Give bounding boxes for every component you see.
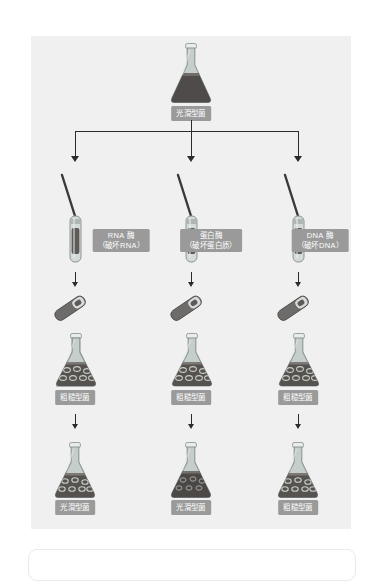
mid-flask-label-1: 粗糙型菌: [55, 390, 95, 405]
flow-arrow-head-1a: [72, 282, 78, 287]
mid-flask-group-1: [45, 292, 111, 396]
branch-arrow-1: [71, 156, 79, 162]
enzyme-label-3: DNA 酶 （破坏DNA）: [292, 229, 349, 252]
branch-line-2: [191, 131, 192, 157]
branch-line-3: [298, 131, 299, 157]
mid-flask-label-2: 粗糙型菌: [171, 390, 211, 405]
enzyme-label-1: RNA 酶 （破坏RNA）: [93, 229, 150, 252]
tree-crossbar: [75, 131, 298, 132]
branch-line-1: [75, 131, 76, 157]
result-label-2: 光滑型菌: [171, 500, 211, 515]
mid-flask-group-3: [268, 292, 334, 396]
pipette-test-tube-3: [281, 172, 315, 276]
flow-arrow-head-3b: [295, 424, 301, 429]
branch-arrow-2: [187, 156, 195, 162]
result-flask-1: [47, 440, 103, 506]
enzyme-label-2-line2: （破坏蛋白质）: [185, 241, 237, 251]
erlenmeyer-flask-icon: [47, 440, 103, 502]
erlenmeyer-flask-dark-icon: [163, 41, 219, 107]
pouring-tube-and-flask-icon: [268, 292, 334, 392]
enzyme-label-3-line2: （破坏DNA）: [297, 241, 344, 251]
caption-frame: [28, 549, 356, 581]
erlenmeyer-flask-icon: [163, 440, 219, 502]
flow-arrow-head-3a: [295, 282, 301, 287]
top-flask: [163, 41, 219, 111]
pipette-test-tube-icon: [281, 172, 315, 272]
result-label-1: 光滑型菌: [55, 500, 95, 515]
flow-arrow-head-1b: [72, 424, 78, 429]
pipette-test-tube-icon: [58, 172, 92, 272]
result-flask-2: [163, 440, 219, 506]
flow-arrow-head-2b: [188, 424, 194, 429]
pipette-test-tube-icon: [174, 172, 208, 272]
flow-arrow-head-2a: [188, 282, 194, 287]
pouring-tube-and-flask-icon: [161, 292, 227, 392]
pouring-tube-and-flask-icon: [45, 292, 111, 392]
erlenmeyer-flask-icon: [270, 440, 326, 502]
result-label-3: 粗糙型菌: [278, 500, 318, 515]
enzyme-label-1-line2: （破坏RNA）: [98, 241, 145, 251]
enzyme-label-3-line1: DNA 酶: [307, 231, 334, 240]
mid-flask-label-3: 粗糙型菌: [278, 390, 318, 405]
result-flask-3: [270, 440, 326, 506]
pipette-test-tube-1: [58, 172, 92, 276]
branch-arrow-3: [294, 156, 302, 162]
tree-stem: [191, 120, 192, 131]
enzyme-label-2: 蛋白酶 （破坏蛋白质）: [180, 229, 242, 252]
mid-flask-group-2: [161, 292, 227, 396]
enzyme-label-2-line1: 蛋白酶: [200, 231, 222, 240]
top-flask-label: 光滑型菌: [171, 106, 211, 121]
pipette-test-tube-2: [174, 172, 208, 276]
enzyme-label-1-line1: RNA 酶: [108, 231, 135, 240]
